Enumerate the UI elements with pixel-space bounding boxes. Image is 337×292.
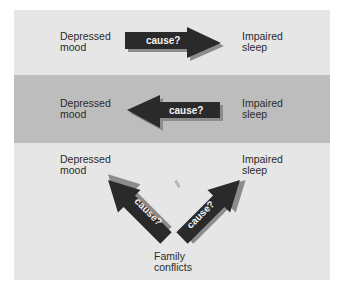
panel-2-left-arrow-icon: cause? <box>127 95 223 131</box>
arrows-layer: cause? cause? cause? cause? <box>0 0 337 292</box>
panel-1-arrow-label: cause? <box>146 35 180 46</box>
panel-1-right-arrow-icon: cause? <box>125 27 224 61</box>
panel-2-arrow-label: cause? <box>169 105 203 116</box>
